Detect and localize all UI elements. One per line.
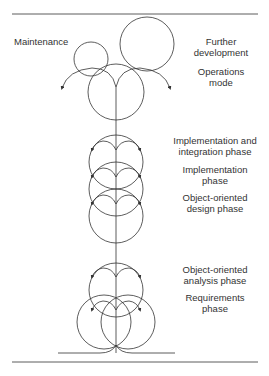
label-ood: Object-oriented design phase — [170, 192, 260, 214]
label-text: Maintenance — [14, 36, 68, 47]
label-implementation: Implementation phase — [170, 164, 260, 186]
baseline — [58, 345, 175, 353]
label-text: development — [193, 47, 249, 58]
label-maintenance: Maintenance — [14, 36, 68, 47]
label-text: Requirements — [170, 292, 260, 303]
label-text: design phase — [170, 203, 260, 214]
label-text: integration phase — [165, 146, 265, 157]
label-operations: Operations mode — [188, 66, 254, 88]
label-text: phase — [170, 175, 260, 186]
label-text: Further — [193, 36, 249, 47]
label-text: Operations — [188, 66, 254, 77]
further-development-circle — [120, 17, 174, 71]
label-text: Object-oriented — [170, 264, 260, 275]
label-requirements: Requirements phase — [170, 292, 260, 314]
label-text: phase — [170, 303, 260, 314]
label-ooa: Object-oriented analysis phase — [170, 264, 260, 286]
label-text: mode — [188, 77, 254, 88]
label-further-development: Further development — [193, 36, 249, 58]
label-text: analysis phase — [170, 275, 260, 286]
label-text: Implementation — [170, 164, 260, 175]
label-impl-integration: Implementation and integration phase — [165, 135, 265, 157]
label-text: Object-oriented — [170, 192, 260, 203]
requirements-circle-left — [77, 295, 131, 349]
label-text: Implementation and — [165, 135, 265, 146]
requirements-circle-right — [101, 295, 155, 349]
